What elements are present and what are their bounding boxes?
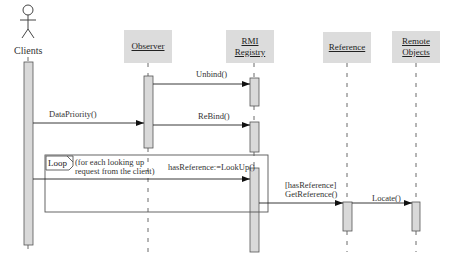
message-locate-label: Locate()	[372, 193, 401, 203]
message-getreference-label: GetReference()	[285, 189, 337, 199]
activation-reference	[343, 202, 352, 231]
activation-remote-objects	[412, 202, 420, 231]
object-rmi-label-line1: RMI	[241, 36, 258, 47]
activation-rmi-lookup	[250, 168, 259, 252]
object-reference-label: Reference	[329, 42, 365, 53]
message-rebind-label: ReBind()	[198, 111, 230, 121]
activation-observer	[144, 76, 153, 148]
activation-rmi-rebind	[250, 122, 259, 152]
loop-guard-line2: request from the client)	[75, 166, 155, 176]
object-reference: Reference	[323, 32, 371, 63]
loop-tag-label: Loop	[48, 157, 67, 170]
stick-figure-icon	[20, 5, 36, 38]
activation-clients	[24, 62, 33, 245]
object-remote-label-line2: Objects	[402, 47, 430, 58]
object-remote-objects: Remote Objects	[392, 31, 440, 63]
message-unbind-label: Unbind()	[196, 69, 227, 79]
sequence-diagram: Clients Observer RMI Registry Reference …	[0, 0, 465, 263]
message-lookup-label: hasReference:=LookUp()	[168, 162, 255, 172]
object-remote-label-line1: Remote	[402, 36, 430, 47]
object-observer: Observer	[124, 30, 172, 63]
actor-clients-label: Clients	[14, 45, 42, 56]
object-observer-label: Observer	[132, 41, 165, 52]
message-datapriority-label: DataPriority()	[49, 109, 97, 119]
activation-rmi-unbind	[250, 78, 259, 106]
lifelines	[28, 57, 416, 252]
object-rmi-registry: RMI Registry	[226, 30, 274, 63]
object-rmi-label-line2: Registry	[235, 47, 266, 58]
